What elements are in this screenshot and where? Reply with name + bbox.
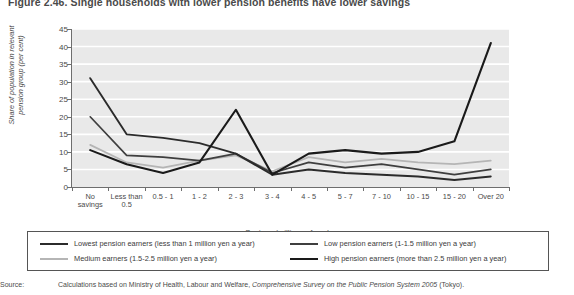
- y-axis-tick-mark: [67, 134, 71, 135]
- y-axis-tick-mark: [67, 117, 71, 118]
- chart-area: Share of population in relevant pension …: [0, 14, 574, 214]
- y-axis-tick-mark: [67, 169, 71, 170]
- x-axis-tick-mark: [72, 188, 73, 191]
- y-axis-tick-label: 10: [50, 147, 68, 156]
- legend-color-swatch: [290, 258, 318, 260]
- source-label: Source:: [0, 281, 24, 288]
- legend-item-label: Lowest pension earners (less than 1 mill…: [74, 239, 255, 248]
- y-axis-tick-mark: [67, 64, 71, 65]
- x-axis-tick-mark: [108, 188, 109, 191]
- x-axis-tick-mark: [254, 188, 255, 191]
- legend-color-swatch: [40, 258, 68, 260]
- source-italic-title: Comprehensive Survey on the Public Pensi…: [252, 281, 437, 288]
- x-axis-tick-mark: [327, 188, 328, 191]
- legend-column-right: Low pension earners (1-1.5 million yen a…: [290, 236, 545, 266]
- x-axis-tick-mark: [291, 188, 292, 191]
- plot-area: [72, 29, 509, 187]
- x-axis-tick-mark: [363, 188, 364, 191]
- y-axis-tick-label: 20: [50, 112, 68, 121]
- y-axis-tick-mark: [67, 82, 71, 83]
- x-axis-tick-mark: [509, 188, 510, 191]
- chart-legend: Lowest pension earners (less than 1 mill…: [27, 231, 549, 271]
- y-axis-tick-label: 5: [50, 165, 68, 174]
- x-axis-tick-mark: [145, 188, 146, 191]
- line-chart-svg: [72, 29, 509, 187]
- legend-item: Lowest pension earners (less than 1 mill…: [40, 236, 295, 251]
- y-axis-tick-label: 25: [50, 95, 68, 104]
- data-series-line: [90, 43, 491, 175]
- legend-item: Low pension earners (1-1.5 million yen a…: [290, 236, 545, 251]
- source-text: Calculations based on Ministry of Health…: [58, 281, 464, 288]
- y-axis-tick-labels: 051015202530354045: [48, 14, 68, 214]
- legend-color-swatch: [40, 243, 68, 245]
- x-axis-tick-mark: [436, 188, 437, 191]
- y-axis-tick-mark: [67, 29, 71, 30]
- legend-item-label: High pension earners (more than 2.5 mill…: [324, 254, 506, 263]
- x-axis-tick-mark: [218, 188, 219, 191]
- legend-item: Medium earners (1.5-2.5 million yen a ye…: [40, 251, 295, 266]
- y-axis-tick-label: 35: [50, 60, 68, 69]
- y-axis-tick-label: 45: [50, 25, 68, 34]
- source-prefix: Calculations based on Ministry of Health…: [58, 281, 252, 288]
- y-axis-tick-label: 15: [50, 130, 68, 139]
- legend-item-label: Medium earners (1.5-2.5 million yen a ye…: [74, 254, 217, 263]
- y-axis-tick-mark: [67, 152, 71, 153]
- x-axis-tick-mark: [473, 188, 474, 191]
- legend-column-left: Lowest pension earners (less than 1 mill…: [40, 236, 295, 266]
- y-axis-tick-label: 30: [50, 77, 68, 86]
- y-axis-tick-mark: [67, 187, 71, 188]
- y-axis-title: Share of population in relevant pension …: [7, 15, 25, 135]
- x-axis-tick-label: Over 20: [468, 193, 514, 201]
- figure-title: Figure 2.46. Single households with lowe…: [8, 0, 410, 8]
- legend-item-label: Low pension earners (1-1.5 million yen a…: [324, 239, 476, 248]
- y-axis-tick-label: 40: [50, 42, 68, 51]
- y-axis-tick-mark: [67, 47, 71, 48]
- legend-item: High pension earners (more than 2.5 mill…: [290, 251, 545, 266]
- y-axis-tick-mark: [67, 99, 71, 100]
- legend-color-swatch: [290, 243, 318, 245]
- x-axis-tick-mark: [400, 188, 401, 191]
- y-axis-line: [71, 29, 72, 188]
- y-axis-tick-label: 0: [50, 183, 68, 192]
- x-axis-tick-mark: [181, 188, 182, 191]
- source-suffix: (Tokyo).: [437, 281, 464, 288]
